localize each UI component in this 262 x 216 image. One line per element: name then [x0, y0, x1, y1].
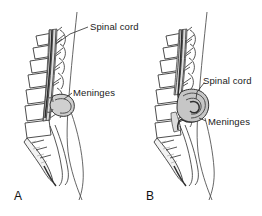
lower-body-contour-b	[205, 118, 214, 200]
label-spinal-cord-a: Spinal cord	[90, 22, 139, 32]
coccyx-strand-b-2	[185, 125, 198, 185]
label-meninges-b: Meninges	[208, 117, 250, 127]
panel-letter-a: A	[14, 190, 22, 202]
myelomeningocele-sac-b	[177, 89, 209, 122]
panel-letter-b: B	[146, 190, 154, 202]
medical-illustration-figure: Spinal cord Meninges Spinal cord Meninge…	[0, 0, 262, 216]
panel-b-graphic	[0, 0, 262, 216]
panel-b-spine	[154, 12, 214, 200]
label-meninges-a: Meninges	[73, 88, 115, 98]
coccyx-tip-b	[174, 166, 186, 186]
label-spinal-cord-b: Spinal cord	[203, 76, 252, 86]
